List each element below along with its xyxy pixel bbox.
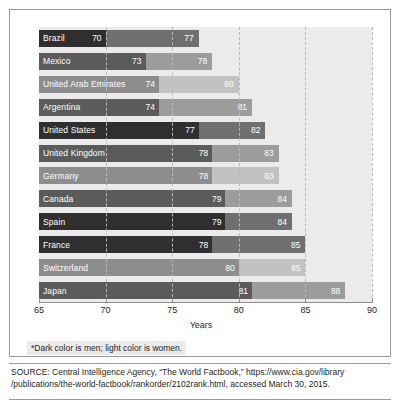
bar-segment-men[interactable]: United States77 (39, 122, 199, 139)
source-line-1: SOURCE: Central Intelligence Agency, “Th… (11, 367, 344, 377)
women-value-label: 85 (291, 240, 300, 250)
gridline-75 (172, 27, 173, 302)
men-value-label: 81 (239, 286, 248, 296)
bar-segment-women[interactable]: 82 (199, 122, 266, 139)
bar-row[interactable]: Argentina7481 (39, 99, 252, 116)
country-label: United Arab Emirates (43, 79, 125, 89)
tick-label-65: 65 (34, 305, 44, 315)
tick-label-75: 75 (167, 305, 177, 315)
tick-mark-75 (172, 298, 173, 303)
men-value-label: 78 (199, 148, 208, 158)
bar-row[interactable]: Mexico7378 (39, 53, 212, 70)
women-value-label: 83 (264, 171, 273, 181)
tick-label-70: 70 (101, 305, 111, 315)
men-value-label: 70 (92, 33, 101, 43)
men-value-label: 77 (185, 125, 194, 135)
tick-label-85: 85 (300, 305, 310, 315)
bar-row[interactable]: United Kingdom7883 (39, 145, 279, 162)
men-value-label: 78 (199, 240, 208, 250)
country-label: Canada (43, 194, 73, 204)
bar-row[interactable]: Germany7883 (39, 167, 279, 184)
men-value-label: 73 (132, 56, 141, 66)
gridline-90 (372, 27, 373, 302)
country-label: United States (43, 125, 95, 135)
bar-row[interactable]: Japan8188 (39, 282, 345, 299)
x-axis-line (39, 302, 372, 303)
women-value-label: 83 (264, 148, 273, 158)
bar-row[interactable]: United Arab Emirates7480 (39, 76, 239, 93)
bar-segment-women[interactable]: 84 (225, 213, 292, 230)
men-value-label: 78 (199, 171, 208, 181)
men-value-label: 74 (145, 79, 154, 89)
bar-segment-men[interactable]: Japan81 (39, 282, 252, 299)
bar-segment-women[interactable]: 78 (146, 53, 213, 70)
tick-mark-90 (372, 298, 373, 303)
gridline-80 (239, 27, 240, 302)
country-label: Germany (43, 171, 79, 181)
bar-segment-men[interactable]: Brazil70 (39, 30, 106, 47)
bar-segment-men[interactable]: Germany78 (39, 167, 212, 184)
country-label: Mexico (43, 56, 71, 66)
bar-segment-women[interactable]: 85 (212, 236, 305, 253)
bar-segment-women[interactable]: 83 (212, 167, 279, 184)
plot-area: Brazil7077Mexico7378United Arab Emirates… (39, 27, 372, 302)
source-note: SOURCE: Central Intelligence Agency, “Th… (11, 367, 391, 390)
women-value-label: 84 (278, 194, 287, 204)
bar-segment-men[interactable]: United Arab Emirates74 (39, 76, 159, 93)
bar-segment-men[interactable]: Switzerland80 (39, 259, 239, 276)
bar-row[interactable]: United States7782 (39, 122, 265, 139)
bar-segment-women[interactable]: 83 (212, 145, 279, 162)
women-value-label: 88 (331, 286, 340, 296)
country-label: Brazil (43, 33, 65, 43)
women-value-label: 85 (291, 263, 300, 273)
bar-row[interactable]: Canada7984 (39, 190, 292, 207)
men-value-label: 79 (212, 194, 221, 204)
women-value-label: 80 (224, 79, 233, 89)
women-value-label: 82 (251, 125, 260, 135)
bar-segment-men[interactable]: United Kingdom78 (39, 145, 212, 162)
bar-segment-women[interactable]: 88 (252, 282, 345, 299)
tick-label-90: 90 (367, 305, 377, 315)
country-label: Argentina (43, 102, 80, 112)
bar-row[interactable]: Spain7984 (39, 213, 292, 230)
source-divider-bottom (9, 399, 391, 400)
bar-segment-women[interactable]: 84 (225, 190, 292, 207)
gridline-85 (305, 27, 306, 302)
bar-segment-women[interactable]: 77 (106, 30, 199, 47)
country-label: United Kingdom (43, 148, 105, 158)
men-value-label: 80 (225, 263, 234, 273)
bar-segment-men[interactable]: Canada79 (39, 190, 225, 207)
x-axis-title: Years (10, 320, 392, 330)
bar-segment-men[interactable]: Mexico73 (39, 53, 146, 70)
tick-mark-70 (106, 298, 107, 303)
country-label: France (43, 240, 70, 250)
women-value-label: 78 (198, 56, 207, 66)
bar-segment-men[interactable]: France78 (39, 236, 212, 253)
chart-frame: Brazil7077Mexico7378United Arab Emirates… (9, 9, 391, 357)
men-value-label: 79 (212, 217, 221, 227)
tick-label-80: 80 (234, 305, 244, 315)
bar-segment-women[interactable]: 85 (239, 259, 306, 276)
country-label: Spain (43, 217, 65, 227)
tick-mark-85 (305, 298, 306, 303)
source-divider-top (9, 363, 391, 364)
tick-mark-65 (39, 298, 40, 303)
life-expectancy-figure: Brazil7077Mexico7378United Arab Emirates… (0, 0, 402, 411)
tick-mark-80 (239, 298, 240, 303)
footnote: *Dark color is men; light color is women… (27, 341, 186, 355)
women-value-label: 84 (278, 217, 287, 227)
source-line-2: /publications/the-world-factbook/rankord… (11, 379, 330, 389)
country-label: Japan (43, 286, 67, 296)
bar-segment-women[interactable]: 80 (159, 76, 239, 93)
women-value-label: 77 (184, 33, 193, 43)
gridline-70 (106, 27, 107, 302)
bar-segment-men[interactable]: Spain79 (39, 213, 225, 230)
bar-rows: Brazil7077Mexico7378United Arab Emirates… (39, 27, 372, 302)
bar-segment-men[interactable]: Argentina74 (39, 99, 159, 116)
men-value-label: 74 (145, 102, 154, 112)
country-label: Switzerland (43, 263, 88, 273)
bar-row[interactable]: Brazil7077 (39, 30, 199, 47)
